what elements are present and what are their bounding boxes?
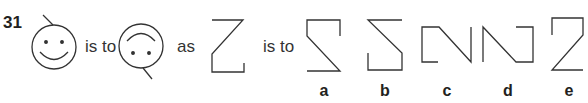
option-c-label[interactable]: c	[437, 82, 457, 100]
option-a-label[interactable]: a	[314, 82, 334, 100]
option-c-shape-icon[interactable]	[422, 27, 471, 62]
option-d-shape-icon[interactable]	[483, 27, 533, 62]
rotated-smiley-face-icon	[119, 24, 163, 79]
option-e-shape-icon[interactable]	[552, 18, 583, 70]
option-b-shape-icon[interactable]	[368, 20, 402, 70]
smiley-face-icon	[32, 15, 76, 69]
option-e-label[interactable]: e	[559, 82, 579, 100]
option-a-shape-icon[interactable]	[307, 20, 340, 71]
option-d-label[interactable]: d	[498, 82, 518, 100]
option-b-label[interactable]: b	[375, 82, 395, 100]
z-shape-icon	[212, 20, 244, 72]
